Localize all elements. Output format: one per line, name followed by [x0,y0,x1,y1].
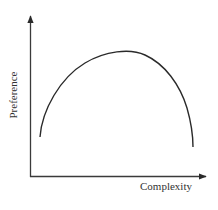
inverted-u-chart: Preference Complexity [0,0,218,210]
y-axis-label: Preference [7,71,19,118]
x-axis-label: Complexity [140,180,192,192]
preference-curve [40,51,193,147]
